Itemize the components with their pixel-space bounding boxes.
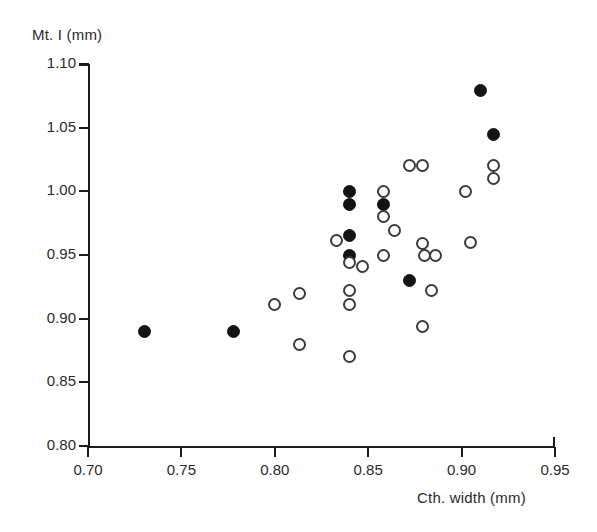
x-tick bbox=[461, 447, 463, 457]
scatter-chart: Mt. I (mm) Cth. width (mm) 0.800.850.900… bbox=[0, 0, 597, 532]
x-tick-label: 0.80 bbox=[245, 461, 305, 478]
data-point-filled bbox=[343, 198, 356, 211]
data-point-filled bbox=[377, 198, 390, 211]
data-point-filled bbox=[487, 128, 500, 141]
data-point-open bbox=[377, 210, 390, 223]
data-point-open bbox=[459, 185, 472, 198]
data-point-filled bbox=[343, 185, 356, 198]
x-tick-label: 0.85 bbox=[338, 461, 398, 478]
data-point-open bbox=[293, 287, 306, 300]
data-point-open bbox=[330, 234, 343, 247]
x-axis-title: Cth. width (mm) bbox=[417, 489, 526, 506]
data-point-open bbox=[377, 249, 390, 262]
data-point-open bbox=[487, 172, 500, 185]
x-tick-label: 0.95 bbox=[525, 461, 585, 478]
x-tick bbox=[554, 447, 556, 457]
y-tick-label: 0.90 bbox=[18, 309, 76, 326]
x-tick bbox=[274, 447, 276, 457]
data-point-open bbox=[425, 284, 438, 297]
data-point-open bbox=[464, 236, 477, 249]
data-point-open bbox=[343, 284, 356, 297]
data-point-open bbox=[388, 224, 401, 237]
y-tick-label: 0.85 bbox=[18, 372, 76, 389]
y-axis-title: Mt. I (mm) bbox=[32, 26, 102, 43]
plot-area bbox=[88, 64, 555, 446]
data-point-open bbox=[416, 159, 429, 172]
data-point-open bbox=[343, 256, 356, 269]
data-point-open bbox=[416, 320, 429, 333]
data-point-open bbox=[429, 249, 442, 262]
y-tick-label: 1.05 bbox=[18, 118, 76, 135]
data-point-filled bbox=[227, 325, 240, 338]
y-tick-label: 1.00 bbox=[18, 181, 76, 198]
data-point-filled bbox=[343, 229, 356, 242]
y-tick-label: 0.80 bbox=[18, 436, 76, 453]
data-point-open bbox=[343, 298, 356, 311]
data-point-filled bbox=[474, 84, 487, 97]
y-tick-label: 1.10 bbox=[18, 54, 76, 71]
x-tick bbox=[367, 447, 369, 457]
data-point-open bbox=[268, 298, 281, 311]
x-axis-line bbox=[88, 446, 555, 448]
data-point-open bbox=[343, 350, 356, 363]
data-point-filled bbox=[138, 325, 151, 338]
x-tick-label: 0.90 bbox=[432, 461, 492, 478]
x-tick-label: 0.70 bbox=[58, 461, 118, 478]
x-tick bbox=[87, 447, 89, 457]
x-tick-label: 0.75 bbox=[151, 461, 211, 478]
data-point-open bbox=[487, 159, 500, 172]
y-tick-label: 0.95 bbox=[18, 245, 76, 262]
data-point-open bbox=[377, 185, 390, 198]
data-point-open bbox=[293, 338, 306, 351]
data-point-filled bbox=[403, 274, 416, 287]
data-point-open bbox=[416, 237, 429, 250]
data-point-open bbox=[356, 260, 369, 273]
data-point-open bbox=[403, 159, 416, 172]
x-tick bbox=[180, 447, 182, 457]
